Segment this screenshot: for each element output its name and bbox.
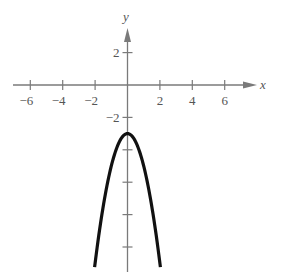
- x-axis-label: x: [259, 77, 266, 92]
- x-tick-label: −2: [84, 93, 98, 108]
- y-tick-label: 2: [113, 45, 120, 60]
- axes: [13, 28, 257, 272]
- x-tick-label: 2: [157, 93, 164, 108]
- x-tick-label: 4: [189, 93, 196, 108]
- y-axis-label: y: [121, 9, 129, 24]
- y-tick-label: −2: [106, 110, 120, 125]
- y-axis-arrow-icon: [124, 28, 131, 42]
- x-tick-label: −6: [19, 93, 33, 108]
- x-axis-arrow-icon: [243, 82, 257, 89]
- x-tick-label: 6: [221, 93, 228, 108]
- parabola-graph: −6−4−22462−2 x y: [0, 0, 281, 279]
- x-tick-label: −4: [52, 93, 66, 108]
